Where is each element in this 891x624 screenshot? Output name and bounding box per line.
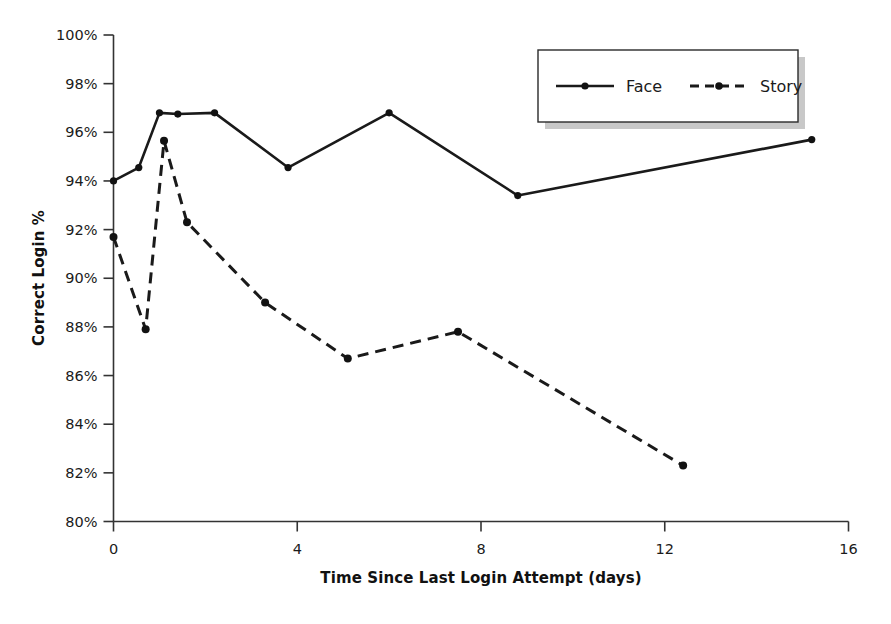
series-line-story — [114, 141, 684, 466]
y-tick-label: 88% — [65, 319, 97, 335]
x-tick-label: 8 — [476, 541, 485, 557]
x-axis-title: Time Since Last Login Attempt (days) — [320, 569, 641, 587]
y-tick-label: 98% — [65, 76, 97, 92]
data-point-story — [454, 328, 462, 336]
y-axis-title: Correct Login % — [30, 210, 48, 346]
data-point-face — [386, 109, 393, 116]
data-point-face — [211, 109, 218, 116]
data-point-face — [174, 110, 181, 117]
chart-legend[interactable]: Face Story — [538, 50, 805, 129]
y-tick-label: 84% — [65, 416, 97, 432]
x-tick-label: 4 — [293, 541, 302, 557]
data-point-story — [160, 137, 168, 145]
y-tick-label: 94% — [65, 173, 97, 189]
series-story — [110, 137, 688, 470]
data-point-face — [284, 164, 291, 171]
data-point-story — [261, 299, 269, 307]
x-axis-ticks: 0481216 — [109, 522, 858, 557]
y-tick-label: 96% — [65, 124, 97, 140]
legend-swatch-story-marker — [715, 82, 723, 90]
legend-label-story: Story — [760, 77, 802, 96]
data-point-face — [135, 164, 142, 171]
legend-label-face: Face — [626, 77, 662, 96]
data-point-story — [183, 218, 191, 226]
line-chart-canvas: 80%82%84%86%88%90%92%94%96%98%100% 04812… — [0, 0, 891, 624]
y-tick-label: 80% — [65, 514, 97, 530]
y-tick-label: 92% — [65, 222, 97, 238]
data-point-story — [679, 462, 687, 470]
y-axis-ticks: 80%82%84%86%88%90%92%94%96%98%100% — [56, 27, 113, 530]
data-point-face — [808, 136, 815, 143]
data-point-face — [156, 109, 163, 116]
data-point-story — [344, 355, 352, 363]
x-tick-label: 0 — [109, 541, 118, 557]
data-point-face — [110, 177, 117, 184]
chart-figure: 80%82%84%86%88%90%92%94%96%98%100% 04812… — [0, 0, 891, 624]
y-tick-label: 86% — [65, 368, 97, 384]
data-point-story — [142, 325, 150, 333]
data-point-face — [514, 192, 521, 199]
x-tick-label: 16 — [839, 541, 857, 557]
chart-series-layer — [110, 109, 816, 469]
y-tick-label: 90% — [65, 270, 97, 286]
legend-swatch-face-marker — [581, 82, 588, 89]
x-tick-label: 12 — [656, 541, 674, 557]
data-point-story — [110, 233, 118, 241]
y-tick-label: 82% — [65, 465, 97, 481]
y-tick-label: 100% — [56, 27, 97, 43]
